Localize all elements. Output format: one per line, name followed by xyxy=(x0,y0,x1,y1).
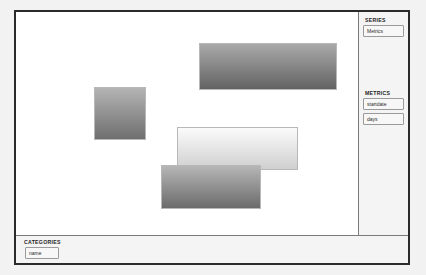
chart-canvas[interactable] xyxy=(16,12,408,263)
canvas-shape[interactable] xyxy=(199,43,337,90)
series-chip-metrics[interactable]: Metrics xyxy=(363,25,404,37)
categories-panel-title: CATEGORIES xyxy=(20,238,404,247)
canvas-shape[interactable] xyxy=(94,87,146,140)
series-panel: SERIES Metrics xyxy=(359,16,408,37)
metrics-panel-title: METRICS xyxy=(362,89,405,98)
series-panel-title: SERIES xyxy=(362,16,405,25)
canvas-shape[interactable] xyxy=(161,165,261,209)
right-sidebar: SERIES Metrics METRICS startdate days xyxy=(358,12,408,235)
categories-panel: CATEGORIES name xyxy=(16,235,408,263)
categories-chip-name[interactable]: name xyxy=(25,247,59,259)
app-window: SERIES Metrics METRICS startdate days CA… xyxy=(14,10,410,265)
canvas-shape[interactable] xyxy=(177,127,298,170)
metrics-panel: METRICS startdate days xyxy=(359,89,408,125)
metrics-chip-days[interactable]: days xyxy=(363,113,404,125)
metrics-chip-startdate[interactable]: startdate xyxy=(363,98,404,110)
